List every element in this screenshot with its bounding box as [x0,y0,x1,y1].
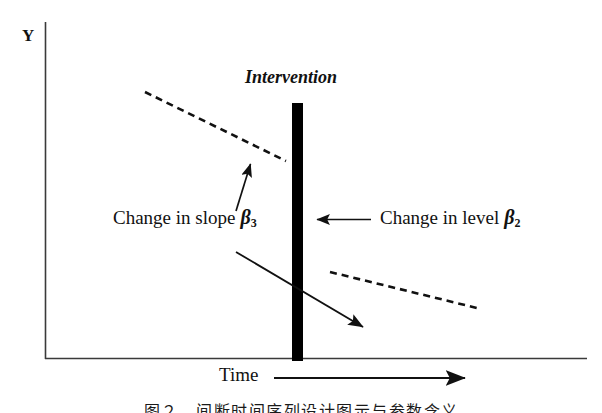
figure-caption: 图２ 间断时间序列设计图示与参数含义 [0,398,602,413]
pre-intervention-trend-line [145,92,286,161]
change-in-level-text: Change in level [380,207,499,228]
beta-3-symbol: β3 [235,206,256,228]
change-in-level-annotation: Change in level β2 [380,207,521,229]
intervention-marker-bar [292,103,303,361]
beta-2-symbol: β2 [499,206,520,228]
beta-3-glyph: β [240,206,250,228]
change-in-slope-text: Change in slope [113,207,235,228]
interrupted-time-series-figure: Y Time Intervention Change in slope β3 C… [0,0,602,413]
beta-2-glyph: β [504,206,514,228]
y-axis-label: Y [22,27,35,44]
beta-2-subscript: 2 [515,216,521,230]
intervention-title: Intervention [245,68,337,86]
change-in-slope-pointer-arrow [236,164,251,211]
post-intervention-trend-line [330,272,477,308]
x-axis-label: Time [219,365,258,384]
beta-3-subscript: 3 [251,216,257,230]
change-in-slope-annotation: Change in slope β3 [113,207,257,229]
